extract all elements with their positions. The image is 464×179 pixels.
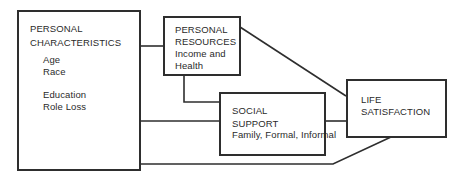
node-item: Age: [43, 54, 60, 66]
node-item: Education: [43, 89, 86, 101]
node-personal-resources: PERSONAL RESOURCES Income and Health: [163, 16, 241, 76]
node-title-line: SATISFACTION: [361, 106, 430, 118]
node-item: Role Loss: [43, 101, 86, 113]
edge-resources-to-satisfaction: [240, 27, 346, 96]
node-item: Family, Formal, Informal: [232, 129, 336, 141]
node-title-line: CHARACTERISTICS: [30, 37, 121, 49]
node-title-line: LIFE: [361, 94, 381, 106]
edge-resources-to-support: [184, 75, 219, 102]
node-social-support: SOCIAL SUPPORT Family, Formal, Informal: [219, 92, 326, 156]
node-title-line: SOCIAL: [232, 105, 267, 117]
node-title-line: PERSONAL: [175, 24, 228, 36]
node-personal-characteristics: PERSONAL CHARACTERISTICS Age Race Educat…: [17, 10, 141, 171]
node-title-line: RESOURCES: [175, 36, 236, 48]
node-title-line: PERSONAL: [30, 23, 83, 35]
node-item: Health: [175, 60, 203, 72]
node-life-satisfaction: LIFE SATISFACTION: [346, 79, 447, 138]
node-item: Race: [43, 66, 66, 78]
node-item: Income and: [175, 48, 226, 60]
